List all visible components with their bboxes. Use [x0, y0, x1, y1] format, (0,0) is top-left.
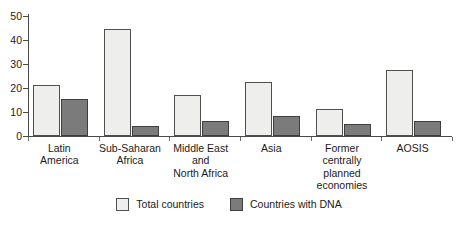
bar-total-2 [174, 95, 201, 136]
bar-dna-2 [202, 121, 229, 136]
legend-item-countries-with-dna: Countries with DNA [230, 198, 342, 211]
x-axis-tick-5 [452, 137, 453, 141]
chart-legend: Total countries Countries with DNA [0, 198, 458, 211]
bar-dna-4 [344, 124, 371, 136]
bar-dna-5 [414, 121, 441, 136]
y-tick-label-50: 50 [10, 11, 22, 22]
dark-swatch-icon [230, 198, 243, 211]
y-tick-label-30: 30 [10, 59, 22, 70]
legend-item-total-countries: Total countries [116, 198, 204, 211]
bar-total-4 [316, 109, 343, 136]
bar-dna-0 [61, 99, 88, 136]
legend-label-countries-with-dna: Countries with DNA [250, 199, 342, 210]
grouped-bar-chart: 50 40 30 20 10 0 Latin AmericaSub-Sahara… [0, 0, 458, 234]
x-axis-category-label-4: Former centrally planned economies [307, 142, 378, 192]
y-tick-label-10: 10 [10, 107, 22, 118]
x-axis-tick-4 [381, 137, 382, 141]
x-axis-tick-origin [28, 137, 29, 141]
x-axis-category-label-5: AOSIS [377, 142, 448, 154]
bar-total-0 [33, 85, 60, 136]
bar-dna-1 [132, 126, 159, 136]
bar-total-1 [104, 29, 131, 136]
legend-label-total-countries: Total countries [136, 199, 204, 210]
x-axis-tick-2 [240, 137, 241, 141]
bar-total-3 [245, 82, 272, 136]
y-tick-label-0: 0 [16, 131, 22, 142]
x-axis-category-label-3: Asia [236, 142, 307, 154]
x-axis-tick-3 [311, 137, 312, 141]
y-tick-label-40: 40 [10, 35, 22, 46]
x-axis-category-label-0: Latin America [24, 142, 95, 167]
bar-dna-3 [273, 116, 300, 136]
light-swatch-icon [116, 198, 129, 211]
bar-total-5 [386, 70, 413, 136]
y-tick-label-20: 20 [10, 83, 22, 94]
x-axis-tick-1 [169, 137, 170, 141]
x-axis-tick-0 [99, 137, 100, 141]
plot-area [28, 14, 452, 136]
x-axis-category-label-2: Middle East and North Africa [165, 142, 236, 179]
x-axis-category-label-1: Sub-Saharan Africa [95, 142, 166, 167]
